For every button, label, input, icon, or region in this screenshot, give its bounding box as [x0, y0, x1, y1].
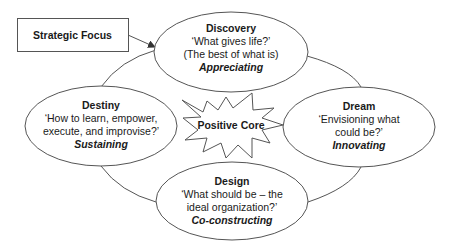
design-question-line1: ‘What should be – the [181, 188, 283, 201]
destiny-mode: Sustaining [43, 138, 159, 151]
discovery-question: ‘What gives life?’ [183, 35, 278, 48]
destiny-question-line2: execute, and improvise?’ [43, 125, 159, 138]
connector-dream-design [308, 167, 361, 202]
discovery-subtext: (The best of what is) [183, 48, 278, 61]
destiny-label: Destiny ‘How to learn, empower, execute,… [43, 99, 159, 151]
design-label: Design ‘What should be – the ideal organ… [181, 175, 283, 227]
design-title: Design [181, 175, 283, 188]
dream-mode: Innovating [318, 139, 399, 152]
strategic-focus-label: Strategic Focus [17, 18, 128, 51]
dream-title: Dream [318, 100, 399, 113]
destiny-title: Destiny [43, 99, 159, 112]
connector-design-destiny [101, 166, 156, 202]
discovery-title: Discovery [183, 22, 278, 35]
connector-discovery-dream [307, 56, 361, 87]
design-question-line2: ideal organization?’ [181, 201, 283, 214]
dream-question-line2: could be?’ [318, 126, 399, 139]
destiny-question-line1: ‘How to learn, empower, [43, 112, 159, 125]
connector-destiny-discovery [101, 50, 156, 87]
discovery-label: Discovery ‘What gives life?’ (The best o… [183, 22, 278, 74]
strategic-focus-arrow [128, 35, 155, 47]
discovery-mode: Appreciating [183, 61, 278, 74]
dream-question-line1: ‘Envisioning what [318, 113, 399, 126]
design-mode: Co-constructing [181, 214, 283, 227]
dream-label: Dream ‘Envisioning what could be?’ Innov… [318, 100, 399, 152]
positive-core-label: Positive Core [197, 119, 264, 131]
